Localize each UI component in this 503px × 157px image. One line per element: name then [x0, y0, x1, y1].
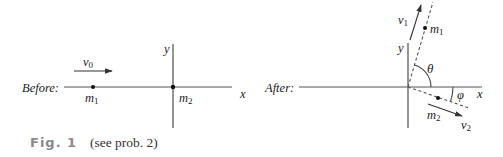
caption-label: Fig. 1: [30, 135, 77, 150]
after-m1-dot: [423, 26, 427, 30]
before-m2-dot: [171, 85, 175, 89]
caption-text: (see prob. 2): [90, 135, 158, 150]
after-m2-dot: [436, 96, 440, 100]
after-title: After:: [264, 81, 294, 95]
before-panel: Before: y x v0 m1 m2: [22, 42, 246, 128]
after-v2-label: v2: [461, 118, 471, 133]
collision-figure: Before: y x v0 m1 m2 After: y x θ φ m1: [0, 0, 503, 157]
after-m1-label: m1: [430, 22, 444, 37]
after-v1-arrow: [410, 5, 421, 40]
after-panel: After: y x θ φ m1 v1 m2 v2: [264, 2, 483, 133]
phi-label: φ: [457, 88, 464, 102]
before-title: Before:: [22, 81, 59, 95]
before-y-label: y: [162, 42, 170, 56]
after-m2-label: m2: [427, 108, 441, 123]
before-m2-label: m2: [179, 91, 193, 106]
after-y-label: y: [396, 41, 404, 55]
phi-arc: [451, 87, 454, 102]
before-m1-label: m1: [85, 91, 99, 106]
before-v0-label: v0: [83, 55, 94, 70]
figure-caption: Fig. 1 (see prob. 2): [30, 135, 158, 150]
after-x-label: x: [476, 87, 483, 101]
before-x-label: x: [239, 87, 246, 101]
theta-label: θ: [427, 61, 434, 76]
before-m1-dot: [91, 85, 95, 89]
after-v1-label: v1: [398, 13, 408, 28]
